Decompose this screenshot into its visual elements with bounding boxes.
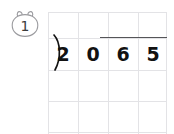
grid-line-horizontal: [48, 12, 167, 13]
grid-line-vertical: [48, 12, 49, 134]
dividend-digit-tens: 6: [108, 38, 138, 70]
grid-line-horizontal: [48, 70, 167, 71]
problem-number-label: 1: [10, 10, 40, 38]
division-vinculum: [100, 37, 167, 38]
division-bracket-icon: [51, 31, 65, 73]
grid-line-vertical: [78, 12, 79, 134]
divisor-digit-ones: 0: [78, 38, 108, 70]
long-division-expression: 2 0 6 5: [48, 38, 167, 70]
worksheet-page: 1 2 0 6 5: [0, 0, 174, 134]
grid-line-horizontal: [48, 101, 167, 102]
worksheet-grid: [48, 12, 167, 134]
grid-line-vertical: [138, 12, 139, 134]
dividend-digit-ones: 5: [138, 38, 168, 70]
problem-number-badge: 1: [10, 10, 40, 38]
grid-line-vertical: [166, 12, 167, 134]
grid-line-horizontal: [48, 132, 167, 133]
grid-line-vertical: [108, 12, 109, 134]
